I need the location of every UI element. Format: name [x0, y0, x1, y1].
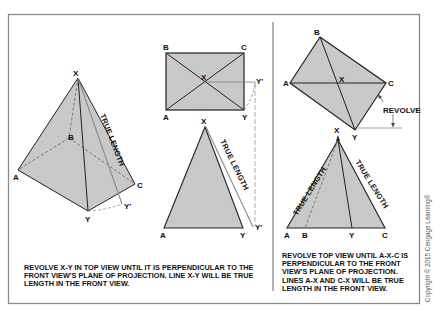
top-label-y: Y	[242, 113, 248, 122]
front-label-y: Y	[240, 231, 246, 240]
pyramid-label-x: X	[73, 69, 79, 78]
right-front-label-c: C	[382, 231, 388, 240]
right-top-view: REVOLVE B A X C Y	[283, 28, 421, 142]
top-label-c: C	[241, 43, 247, 52]
right-top-label-b: B	[314, 28, 320, 37]
front-label-y-prime: Y'	[255, 223, 262, 232]
left-front-view: TRUE LENGTH X A Y Y'	[160, 117, 262, 240]
revolve-label: REVOLVE	[383, 106, 421, 115]
pyramid-label-y: Y	[85, 215, 91, 224]
revolution-diagram: TRUE LENGTH X B A C Y Y' B C X A Y Y' TR…	[0, 0, 440, 311]
right-front-view: TRUE LENGTH TRUE LENGTH X A B Y C	[284, 126, 390, 240]
pyramid-label-y-prime: Y'	[124, 202, 131, 211]
front-label-a: A	[160, 231, 166, 240]
pyramid-label-c: C	[137, 181, 143, 190]
right-top-label-y: Y	[352, 133, 358, 142]
right-caption: REVOLVE TOP VIEW UNTIL A-X-C IS PERPENDI…	[282, 252, 414, 293]
top-label-x: X	[201, 73, 207, 82]
top-label-b: B	[163, 43, 169, 52]
front-label-x: X	[201, 117, 207, 126]
pyramid-label-a: A	[13, 173, 19, 182]
top-label-a: A	[163, 113, 169, 122]
left-caption: REVOLVE X-Y IN TOP VIEW UNTIL IT IS PERP…	[24, 264, 269, 289]
right-front-label-a: A	[284, 231, 290, 240]
right-top-label-c: C	[388, 79, 394, 88]
right-front-label-b: B	[302, 231, 308, 240]
pyramid-label-b: B	[68, 133, 74, 142]
right-front-label-y: Y	[349, 231, 355, 240]
top-label-y-prime: Y'	[256, 77, 263, 86]
right-top-label-x: X	[339, 75, 345, 84]
right-top-label-a: A	[283, 79, 289, 88]
copyright-notice: Copyright © 2015 Cengage Learning®	[424, 195, 431, 302]
pictorial-pyramid: TRUE LENGTH X B A C Y Y'	[13, 69, 143, 224]
right-front-label-x: X	[334, 126, 340, 135]
